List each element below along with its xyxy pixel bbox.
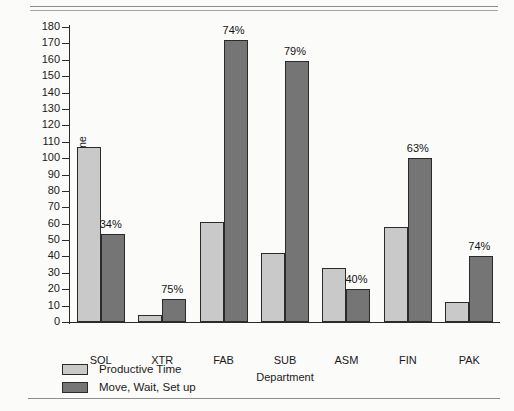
page-rule-bottom <box>28 398 500 399</box>
y-axis-tick-label: 170 <box>26 37 60 48</box>
y-axis-tick-mark <box>62 207 70 208</box>
bar-value-label: 74% <box>468 241 490 252</box>
y-axis-tick-mark <box>62 240 70 241</box>
legend-item: Productive Time <box>62 360 196 378</box>
x-axis-category-label: FIN <box>377 354 438 366</box>
y-axis-tick-label: 180 <box>26 21 60 32</box>
x-axis-category-label: SUB <box>254 354 315 366</box>
y-axis-tick-label: 150 <box>26 70 60 81</box>
y-axis-tick-label: 20 <box>26 283 60 294</box>
legend-swatch <box>62 382 88 393</box>
y-axis-tick-label: 130 <box>26 103 60 114</box>
y-axis-tick-label: 160 <box>26 54 60 65</box>
y-axis-tick-label: 140 <box>26 87 60 98</box>
y-axis-tick-mark <box>62 224 70 225</box>
y-axis-tick-label: 0 <box>26 316 60 327</box>
x-axis-category-label: ASM <box>316 354 377 366</box>
legend-swatch <box>62 364 88 375</box>
y-axis-tick-label: 120 <box>26 119 60 130</box>
y-axis-tick-label: 50 <box>26 234 60 245</box>
y-axis-tick-mark <box>62 289 70 290</box>
legend-label: Move, Wait, Set up <box>99 381 196 393</box>
bar-group: 74% <box>70 27 500 322</box>
y-axis-tick-mark <box>62 158 70 159</box>
y-axis-tick-label: 90 <box>26 169 60 180</box>
y-axis-tick-label: 110 <box>26 136 60 147</box>
y-axis-tick-mark <box>62 191 70 192</box>
y-axis-tick-mark <box>62 27 70 28</box>
chart-legend: Productive TimeMove, Wait, Set up <box>62 360 196 396</box>
y-axis-tick-label: 70 <box>26 201 60 212</box>
y-axis-tick-label: 60 <box>26 218 60 229</box>
x-axis-category-label: FAB <box>193 354 254 366</box>
y-axis-tick-mark <box>62 273 70 274</box>
y-axis-tick-mark <box>62 60 70 61</box>
y-axis-tick-mark <box>62 142 70 143</box>
y-axis-tick-mark <box>62 109 70 110</box>
bar <box>445 302 469 322</box>
legend-label: Productive Time <box>99 363 181 375</box>
x-axis-category-label: PAK <box>439 354 500 366</box>
y-axis-tick-mark <box>62 93 70 94</box>
y-axis-tick-label: 40 <box>26 250 60 261</box>
y-axis-tick-mark <box>62 76 70 77</box>
page-rule-top-1 <box>30 6 498 7</box>
y-axis-tick-label: 100 <box>26 152 60 163</box>
y-axis-tick-mark <box>62 125 70 126</box>
bar <box>469 256 493 322</box>
y-axis-tick-mark <box>62 256 70 257</box>
y-axis-tick-labels: 0102030405060708090100110120130140150160… <box>20 0 60 411</box>
y-axis-tick-label: 30 <box>26 267 60 278</box>
y-axis-tick-mark <box>62 175 70 176</box>
y-axis-tick-mark <box>62 43 70 44</box>
page-rule-top-2 <box>30 10 498 11</box>
x-axis-line <box>69 322 500 323</box>
chart-figure: 0102030405060708090100110120130140150160… <box>0 0 514 411</box>
y-axis-tick-mark <box>62 322 70 323</box>
y-axis-tick-label: 80 <box>26 185 60 196</box>
plot-area: Average Flow Time 34%75%74%79%40%63%74% … <box>70 27 500 322</box>
y-axis-tick-label: 10 <box>26 300 60 311</box>
y-axis-tick-mark <box>62 306 70 307</box>
legend-item: Move, Wait, Set up <box>62 378 196 396</box>
